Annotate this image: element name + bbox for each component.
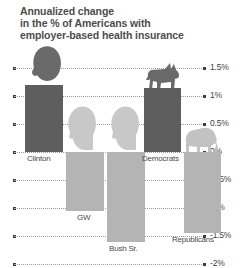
elephant-icon xyxy=(184,127,220,153)
bar-gw xyxy=(66,152,104,211)
bar-republicans xyxy=(184,152,221,233)
tick-dot-right xyxy=(203,67,206,70)
tick-dot-right xyxy=(203,95,206,98)
y-axis-tick-label: -2% xyxy=(210,258,225,268)
bar-label-republicans: Republicans xyxy=(172,235,214,244)
bush-sr-head-icon xyxy=(110,105,140,151)
bar-label-bush-sr: Bush Sr. xyxy=(109,244,138,253)
bar-label-democrats: Democrats xyxy=(142,154,179,163)
bar-label-clinton: Clinton xyxy=(27,154,51,163)
bar-label-gw: GW xyxy=(77,213,90,222)
y-axis-tick-label: 1% xyxy=(210,90,222,100)
bar-bush-sr xyxy=(107,152,145,242)
bar-clinton xyxy=(25,85,63,152)
gw-head-icon xyxy=(67,105,97,151)
tick-dot-right xyxy=(203,263,206,266)
tick-dot-right xyxy=(203,123,206,126)
y-axis-tick-label: 1.5% xyxy=(210,62,229,72)
chart-title-line-2: in the % of Americans with xyxy=(20,17,235,29)
bar-democrats xyxy=(144,88,181,152)
gridline xyxy=(14,264,204,266)
chart-title: Annualized change in the % of Americans … xyxy=(20,5,235,42)
donkey-icon xyxy=(145,61,181,91)
plot-area: 1.5% 1% 0.5% 0% -0.5% xyxy=(0,55,248,245)
chart-title-line-1: Annualized change xyxy=(20,5,235,17)
chart-title-line-3: employer-based health insurance xyxy=(20,29,235,41)
clinton-head-icon xyxy=(29,46,63,88)
